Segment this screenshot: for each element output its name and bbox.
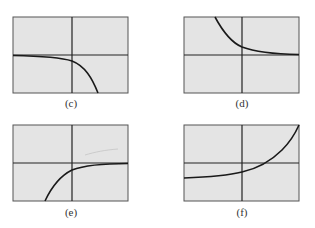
graph-panel-d: (d): [160, 0, 315, 112]
panel-label-e: (e): [51, 206, 91, 218]
panel-label-c: (c): [51, 97, 91, 109]
graph-panel-f: (f): [160, 110, 315, 228]
graph-panel-e: (e): [0, 110, 160, 228]
graph-panel-c: (c): [0, 0, 160, 112]
graph-c: [0, 0, 160, 112]
panel-label-d: (d): [222, 97, 262, 109]
panel-label-f: (f): [222, 206, 262, 218]
graph-d: [160, 0, 315, 112]
